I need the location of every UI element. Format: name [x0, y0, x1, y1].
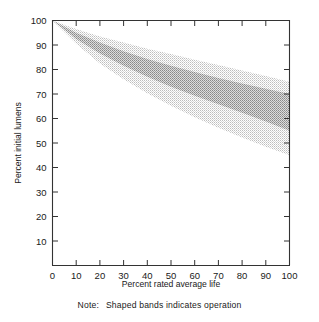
x-tick-label: 0 — [50, 270, 55, 281]
y-tick-label: 30 — [36, 187, 47, 198]
x-axis-ticks-bottom — [76, 260, 289, 266]
note-label: Note: — [78, 300, 99, 310]
y-axis-ticks-right — [284, 21, 290, 266]
x-tick-label: 80 — [237, 270, 248, 281]
y-tick-label: 50 — [36, 138, 47, 149]
y-tick-label: 60 — [36, 113, 47, 124]
y-tick-label: 90 — [36, 40, 47, 51]
lumen-depreciation-figure: 102030405060708090100 010203040506070809… — [0, 0, 319, 322]
y-tick-label: 70 — [36, 89, 47, 100]
y-tick-label: 10 — [36, 236, 47, 247]
chart-canvas: 102030405060708090100 010203040506070809… — [0, 0, 319, 322]
y-axis-ticks-left — [53, 21, 59, 266]
y-tick-label: 20 — [36, 211, 47, 222]
x-tick-label: 10 — [71, 270, 82, 281]
x-tick-label: 90 — [261, 270, 272, 281]
y-tick-label: 40 — [36, 162, 47, 173]
note-text: Shaped bands indicates operation — [106, 300, 241, 310]
x-axis-ticks-top — [76, 21, 289, 27]
y-tick-label: 100 — [31, 15, 47, 26]
x-tick-label: 100 — [282, 270, 298, 281]
chart-note: Note:Shaped bands indicates operation — [0, 300, 319, 310]
y-tick-label: 80 — [36, 64, 47, 75]
y-axis-tick-labels: 102030405060708090100 — [31, 15, 47, 247]
y-axis-title: Percent initial lumens — [13, 102, 23, 184]
x-tick-label: 20 — [95, 270, 106, 281]
x-axis-title: Percent rated average life — [122, 279, 221, 289]
